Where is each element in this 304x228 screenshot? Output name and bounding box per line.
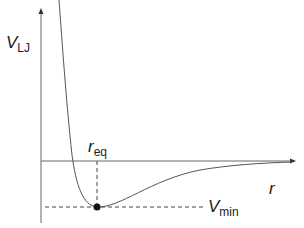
y-axis-arrow-icon (39, 8, 44, 14)
lj-curve (59, 0, 292, 207)
x-axis-label: r (269, 180, 275, 197)
lj-potential-diagram: VLJ req Vmin r (0, 0, 304, 228)
plot-canvas (0, 0, 304, 228)
req-label: req (88, 138, 107, 155)
y-axis-label: VLJ (6, 34, 30, 51)
minimum-point (94, 204, 101, 211)
x-axis-arrow-icon (290, 159, 296, 164)
vmin-label: Vmin (208, 198, 239, 215)
